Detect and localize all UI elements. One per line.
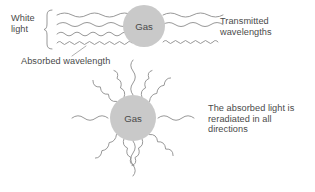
radiating-ray-n [131,60,136,95]
transmitted-wave-2 [163,23,223,27]
radiating-ray-ne [150,78,171,102]
radiating-ray-se [150,134,174,155]
incoming-wave-2 [57,23,129,27]
radiating-ray-nnw [114,71,125,98]
radiating-ray-nne [141,71,152,98]
radiating-ray-w [72,116,108,121]
reradiated-light-label: The absorbed light is reradiated in all … [208,103,294,135]
diagram-canvas: White light Absorbed wavelength Transmit… [0,0,315,192]
radiating-ray-ssw [123,139,134,166]
transmitted-wavelengths-label: Transmitted wavelengths [220,16,272,37]
incoming-wave-4-absorbed [57,42,132,45]
gas-label-bottom: Gas [110,113,156,124]
gas-label-top: Gas [122,21,166,32]
radiating-ray-e [158,116,194,121]
radiating-ray-s [131,141,136,176]
white-light-label: White light [11,13,35,34]
absorbed-wavelength-leader-line [72,46,86,56]
transmitted-wave-1 [163,13,223,17]
white-light-brace [44,10,52,49]
incoming-wave-3 [57,32,129,36]
radiating-ray-nw [93,80,117,101]
absorbed-wavelength-label: Absorbed wavelength [21,56,110,67]
transmitted-wave-3 [163,41,218,44]
incoming-wave-1 [57,13,132,17]
radiating-ray-sw [95,135,116,159]
